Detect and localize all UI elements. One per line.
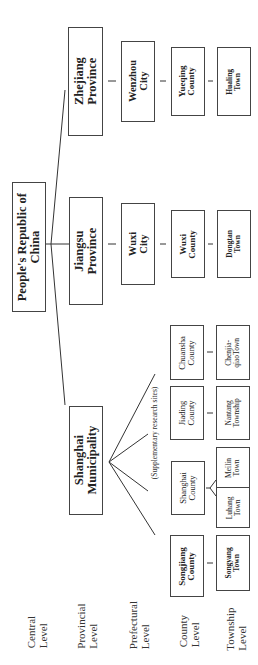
annotation-text: (Supplementary research sites) bbox=[151, 386, 159, 478]
level-label-line: Level bbox=[139, 601, 151, 649]
node-luhang-town: LuhangTown bbox=[216, 487, 250, 528]
node-wuxi-county: WuxiCounty bbox=[171, 210, 205, 278]
node-label: Town bbox=[234, 69, 242, 95]
node-dongtan-town: DongtanTown bbox=[217, 210, 251, 278]
node-jiading-county: JiadingCounty bbox=[170, 386, 204, 440]
node-label: City bbox=[138, 232, 149, 256]
node-label: County bbox=[187, 336, 196, 370]
node-nantang-township: NantangTownship bbox=[216, 386, 250, 440]
node-songyang-town: SongyangTown bbox=[216, 535, 250, 591]
node-prc: People's Republic ofChina bbox=[12, 182, 46, 312]
node-label: Wenzhou bbox=[127, 60, 138, 102]
node-chuansha-county: ChuanshaCounty bbox=[170, 325, 204, 380]
node-label: qiaoTown bbox=[233, 338, 241, 368]
node-label: Municipality bbox=[86, 426, 99, 495]
node-label: Township bbox=[233, 398, 241, 427]
node-label: County bbox=[187, 400, 196, 425]
node-meilin-town: MeilinTown bbox=[216, 447, 250, 488]
node-label: Province bbox=[86, 58, 99, 106]
level-label-line: Prefectural bbox=[127, 601, 139, 649]
level-label-provincial: ProvincialLevel bbox=[75, 600, 99, 652]
node-label: County bbox=[188, 66, 197, 98]
node-label: Wuxi bbox=[127, 232, 138, 256]
level-label-line: Central bbox=[25, 616, 37, 648]
node-chenjiaqiao-town: Chenjia-qiaoTown bbox=[216, 325, 250, 380]
level-label-line: Level bbox=[189, 615, 201, 647]
node-wuxi-city: WuxiCity bbox=[121, 203, 155, 285]
node-label: County bbox=[188, 230, 197, 259]
node-label: Jiangsu bbox=[73, 228, 86, 275]
node-label: Town bbox=[233, 458, 241, 478]
node-shanghai-county: ShanghaiCounty bbox=[171, 461, 205, 515]
level-label-township: TownshipLevel bbox=[224, 603, 248, 655]
level-label-line: Level bbox=[236, 607, 248, 650]
node-jiangsu-province: JiangsuProvince bbox=[69, 197, 103, 305]
level-label-line: Level bbox=[87, 603, 99, 648]
node-label: Town bbox=[233, 547, 241, 578]
node-wenzhou-city: WenzhouCity bbox=[121, 41, 155, 122]
level-label-line: Provincial bbox=[75, 603, 87, 648]
level-label-county: CountyLevel bbox=[177, 608, 201, 654]
node-hualing-town: HualingTown bbox=[217, 47, 251, 116]
node-shanghai-municipality: ShanghaiMunicipality bbox=[69, 406, 103, 515]
node-yueqing-county: YueqingCounty bbox=[171, 47, 205, 116]
level-label-line: County bbox=[177, 615, 189, 647]
level-label-prefectural: PrefecturalLevel bbox=[127, 598, 151, 652]
node-label: China bbox=[29, 193, 42, 301]
node-label: Town bbox=[234, 230, 242, 258]
level-label-central: CentralLevel bbox=[25, 610, 49, 655]
node-label: Town bbox=[233, 496, 241, 519]
node-label: County bbox=[187, 547, 196, 586]
node-label: Zhejiang bbox=[72, 58, 85, 106]
node-label: Province bbox=[86, 228, 99, 275]
node-zhejiang-province: ZhejiangProvince bbox=[68, 27, 103, 136]
node-songjiang-county: SongjiangCounty bbox=[170, 535, 204, 597]
node-label: People's Republic of bbox=[16, 193, 29, 301]
node-label: City bbox=[138, 60, 149, 102]
level-label-line: Township bbox=[224, 607, 236, 650]
level-label-line: Level bbox=[37, 616, 49, 648]
supplementary-sites-note: (Supplementary research sites) bbox=[145, 375, 165, 490]
node-label: Shanghai bbox=[73, 426, 86, 495]
node-label: County bbox=[188, 472, 197, 504]
